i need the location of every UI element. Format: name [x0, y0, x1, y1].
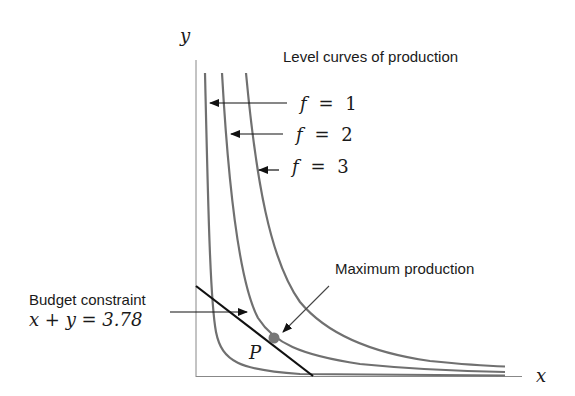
budget-label: Budget constraint — [29, 291, 147, 308]
level-curve-f3 — [246, 73, 505, 367]
y-axis-label: y — [179, 25, 191, 46]
arrow-max-production — [283, 286, 329, 332]
label-f1: f = 1 — [298, 93, 357, 114]
label-f2: f = 2 — [294, 124, 353, 145]
budget-equation: x + y = 3.78 — [29, 309, 142, 330]
label-f3: f = 3 — [290, 156, 349, 177]
diagram-title: Level curves of production — [283, 48, 458, 65]
optimal-point — [269, 333, 280, 344]
x-axis-label: x — [536, 365, 546, 386]
point-label: P — [248, 342, 262, 363]
production-diagram: y x Level curves of production f = 1 f =… — [0, 0, 575, 396]
level-curve-f2 — [222, 73, 505, 372]
max-production-label: Maximum production — [335, 260, 474, 277]
